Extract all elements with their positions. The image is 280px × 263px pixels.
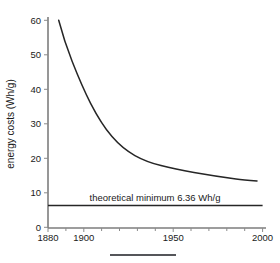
y-tick-label: 30	[30, 118, 41, 129]
y-tick-label: 10	[30, 187, 41, 198]
x-tick-label: 2000	[252, 232, 273, 243]
x-tick-label: 1880	[37, 232, 58, 243]
x-tick-label: 1900	[73, 232, 94, 243]
y-tick-label: 60	[30, 15, 41, 26]
theoretical-minimum-label: theoretical minimum 6.36 Wh/g	[90, 192, 221, 203]
y-axis-title: energy costs (Wh/g)	[5, 79, 16, 168]
figure-container: 60 50 40 30 20 10 0 1880 1900	[0, 0, 280, 263]
x-tick-label: 1950	[163, 232, 184, 243]
energy-costs-line-chart: 60 50 40 30 20 10 0 1880 1900	[0, 0, 280, 263]
y-tick-label: 50	[30, 49, 41, 60]
chart-background	[0, 0, 280, 263]
y-tick-label: 20	[30, 153, 41, 164]
y-tick-label: 40	[30, 84, 41, 95]
